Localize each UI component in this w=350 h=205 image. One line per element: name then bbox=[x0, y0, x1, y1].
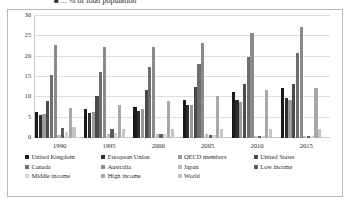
bar bbox=[92, 112, 95, 138]
bar bbox=[167, 101, 170, 138]
legend-swatch-icon bbox=[101, 165, 105, 169]
bar bbox=[57, 135, 60, 138]
legend-label: Australia bbox=[108, 163, 131, 171]
bar bbox=[292, 84, 295, 138]
bar bbox=[296, 53, 299, 138]
bar bbox=[69, 108, 72, 139]
bar bbox=[288, 100, 291, 138]
legend-swatch-icon bbox=[101, 155, 105, 159]
legend-item[interactable]: European Union bbox=[101, 153, 177, 161]
bar bbox=[114, 133, 117, 138]
y-axis-tick-label: 10 bbox=[25, 93, 31, 99]
bar bbox=[110, 129, 113, 138]
legend-row: United KingdomEuropean UnionOECD members… bbox=[25, 153, 330, 161]
bar-group bbox=[84, 16, 133, 138]
x-axis-labels: 199019952000200520102015 bbox=[35, 142, 331, 150]
bar bbox=[314, 88, 317, 138]
bar bbox=[103, 47, 106, 139]
bar bbox=[50, 75, 53, 138]
legend-item[interactable]: Low income bbox=[254, 163, 330, 171]
legend-label: Low income bbox=[260, 163, 292, 171]
bar-group bbox=[133, 16, 182, 138]
y-axis-tick-label: 25 bbox=[25, 32, 31, 38]
bar bbox=[72, 127, 75, 138]
legend-swatch-icon bbox=[25, 165, 29, 169]
bar bbox=[220, 129, 223, 138]
bar bbox=[42, 114, 45, 138]
legend-row: CanadaAustraliaJapanLow income bbox=[25, 163, 330, 171]
legend-item[interactable]: OECD members bbox=[178, 153, 254, 161]
bar bbox=[163, 134, 166, 138]
legend-swatch-icon bbox=[254, 155, 258, 159]
bar bbox=[247, 57, 250, 138]
legend-item[interactable]: United Kingdom bbox=[25, 153, 101, 161]
bar bbox=[61, 128, 64, 138]
legend-item[interactable]: World bbox=[178, 172, 254, 180]
bar bbox=[285, 98, 288, 138]
y-axis-tick-label: 5 bbox=[28, 114, 31, 120]
legend-item[interactable]: Middle income bbox=[25, 172, 101, 180]
legend-label: European Union bbox=[108, 153, 150, 161]
chart-legend: United KingdomEuropean UnionOECD members… bbox=[25, 153, 330, 182]
x-axis-tick-label: 1995 bbox=[84, 142, 133, 150]
bar bbox=[303, 136, 306, 138]
legend-label: High income bbox=[108, 172, 141, 180]
legend-item[interactable]: High income bbox=[101, 172, 177, 180]
bar bbox=[235, 100, 238, 138]
x-axis-tick-label: 2015 bbox=[282, 142, 331, 150]
plot-area: 302520151050 bbox=[34, 16, 330, 138]
y-axis-tick-label: 30 bbox=[25, 12, 31, 18]
bar bbox=[183, 100, 186, 138]
y-axis-tick-label: 0 bbox=[28, 134, 31, 140]
bar bbox=[118, 105, 121, 138]
legend-label: Canada bbox=[32, 163, 51, 171]
bar bbox=[145, 90, 148, 138]
legend-swatch-icon bbox=[101, 174, 105, 178]
bar bbox=[318, 129, 321, 138]
legend-swatch-icon bbox=[25, 155, 29, 159]
bar bbox=[186, 105, 189, 138]
legend-swatch-icon bbox=[254, 165, 258, 169]
bar bbox=[254, 136, 257, 138]
y-axis-tick-label: 20 bbox=[25, 53, 31, 59]
bar bbox=[54, 45, 57, 138]
bar bbox=[46, 101, 49, 138]
legend-item[interactable]: Canada bbox=[25, 163, 101, 171]
bar bbox=[159, 134, 162, 138]
bar bbox=[216, 96, 219, 138]
x-axis-tick-label: 2000 bbox=[134, 142, 183, 150]
bar bbox=[205, 134, 208, 138]
bar bbox=[141, 109, 144, 138]
bar bbox=[250, 33, 253, 138]
legend-swatch-icon bbox=[178, 174, 182, 178]
legend-item[interactable]: United States bbox=[254, 153, 330, 161]
bar bbox=[148, 67, 151, 138]
legend-item[interactable]: Japan bbox=[178, 163, 254, 171]
bar bbox=[258, 136, 261, 138]
legend-label: Japan bbox=[184, 163, 199, 171]
figure-title: ■ ... % of total population bbox=[54, 0, 137, 6]
bar bbox=[232, 92, 235, 138]
bar bbox=[262, 136, 265, 138]
legend-swatch-icon bbox=[25, 174, 29, 178]
bar bbox=[122, 129, 125, 138]
bar bbox=[201, 43, 204, 138]
bar bbox=[107, 134, 110, 138]
bar bbox=[171, 129, 174, 138]
legend-label: Middle income bbox=[32, 172, 71, 180]
figure-title-strip: ■ ... % of total population bbox=[0, 0, 350, 9]
bar-group bbox=[183, 16, 232, 138]
bar bbox=[39, 115, 42, 138]
legend-label: United Kingdom bbox=[32, 153, 75, 161]
bar bbox=[95, 96, 98, 138]
bar bbox=[137, 111, 140, 138]
bar bbox=[311, 136, 314, 138]
legend-item[interactable]: Australia bbox=[101, 163, 177, 171]
bar bbox=[281, 88, 284, 138]
bar bbox=[84, 109, 87, 138]
legend-label: World bbox=[184, 172, 200, 180]
bar bbox=[197, 64, 200, 138]
bar-group bbox=[35, 16, 84, 138]
bar bbox=[65, 132, 68, 138]
bar bbox=[190, 105, 193, 138]
